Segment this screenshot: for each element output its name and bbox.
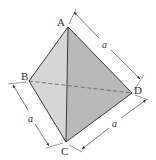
- dimension-label-bc: a: [28, 113, 33, 124]
- dimension-line-bc-lower: [35, 124, 49, 146]
- tetrahedron-diagram: a a a A B C D: [0, 0, 156, 160]
- dimension-label-cd: a: [112, 118, 117, 129]
- dimension-line-ad-upper: [74, 12, 99, 38]
- extension-line-b-bc: [8, 82, 26, 84]
- vertex-label-a: A: [57, 16, 65, 28]
- extension-line-c-cd: [69, 145, 82, 152]
- vertex-label-d: D: [134, 84, 142, 96]
- extension-line-a-ad: [69, 9, 76, 24]
- dimension-line-bc-upper: [13, 85, 28, 110]
- dimension-line-ad-lower: [111, 50, 140, 79]
- dimension-label-ad: a: [102, 39, 107, 50]
- vertex-label-c: C: [61, 145, 68, 157]
- dimension-line-cd-lower: [82, 128, 109, 149]
- dimension-line-cd-upper: [121, 100, 146, 118]
- face-acd: [66, 27, 132, 142]
- vertex-label-b: B: [21, 70, 28, 82]
